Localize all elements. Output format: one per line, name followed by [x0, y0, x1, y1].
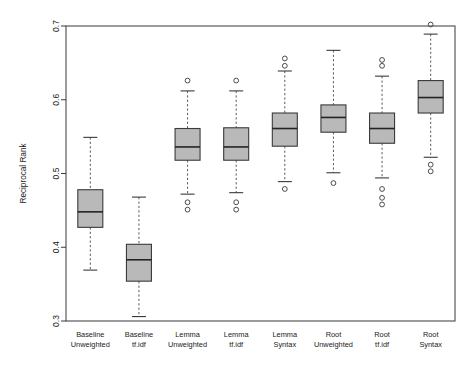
outlier-point [234, 207, 239, 212]
box-iqr [78, 190, 103, 228]
outlier-point [380, 187, 385, 192]
x-axis-category-label: Baseline [125, 330, 153, 339]
outlier-point [282, 187, 287, 192]
boxplot-canvas: 0.30.40.50.60.7Reciprocal RankBaselineUn… [0, 0, 476, 367]
x-axis-category-label: tf.idf [132, 340, 147, 349]
boxplot-group [272, 56, 297, 191]
box-iqr [175, 129, 200, 161]
x-axis-category-label: Unweighted [314, 340, 353, 349]
y-axis-tick-label: 0.3 [51, 315, 61, 327]
y-axis-label: Reciprocal Rank [19, 143, 28, 204]
box-iqr [321, 105, 346, 132]
y-axis-tick-label: 0.5 [51, 167, 61, 179]
boxplot-group [175, 78, 200, 212]
outlier-point [428, 169, 433, 174]
outlier-point [185, 78, 190, 83]
x-axis-category-label: Unweighted [71, 340, 110, 349]
outlier-point [380, 63, 385, 68]
boxplot-figure: 0.30.40.50.60.7Reciprocal RankBaselineUn… [0, 0, 476, 367]
x-axis-category-label: Root [326, 330, 342, 339]
x-axis-category-label: Unweighted [168, 340, 207, 349]
y-axis-tick-label: 0.7 [51, 20, 61, 32]
outlier-point [428, 162, 433, 167]
outlier-point [234, 78, 239, 83]
x-axis-category-label: Syntax [419, 340, 442, 349]
outlier-point [380, 58, 385, 63]
boxplot-group [418, 22, 443, 174]
x-axis-category-label: tf.idf [375, 340, 390, 349]
outlier-point [234, 200, 239, 205]
plot-frame [66, 26, 455, 321]
outlier-point [282, 63, 287, 68]
outlier-point [185, 207, 190, 212]
x-axis-category-label: Lemma [224, 330, 250, 339]
box-iqr [272, 113, 297, 146]
outlier-point [380, 202, 385, 207]
x-axis-category-label: Baseline [76, 330, 104, 339]
y-axis-tick-label: 0.4 [51, 241, 61, 253]
x-axis-category-label: tf.idf [229, 340, 244, 349]
x-axis-category-label: Lemma [272, 330, 298, 339]
outlier-point [282, 56, 287, 61]
boxplot-group [78, 137, 103, 270]
box-iqr [224, 128, 249, 160]
x-axis-category-label: Root [423, 330, 439, 339]
boxplot-group [321, 50, 346, 185]
x-axis-category-label: Syntax [274, 340, 297, 349]
outlier-point [380, 195, 385, 200]
outlier-point [331, 181, 336, 186]
boxplot-group [370, 58, 395, 207]
x-axis-category-label: Root [374, 330, 390, 339]
x-axis-category-label: Lemma [175, 330, 201, 339]
y-axis-tick-label: 0.6 [51, 94, 61, 106]
box-iqr [126, 244, 151, 281]
outlier-point [185, 200, 190, 205]
boxplot-group [126, 197, 151, 316]
boxplot-group [224, 78, 249, 212]
